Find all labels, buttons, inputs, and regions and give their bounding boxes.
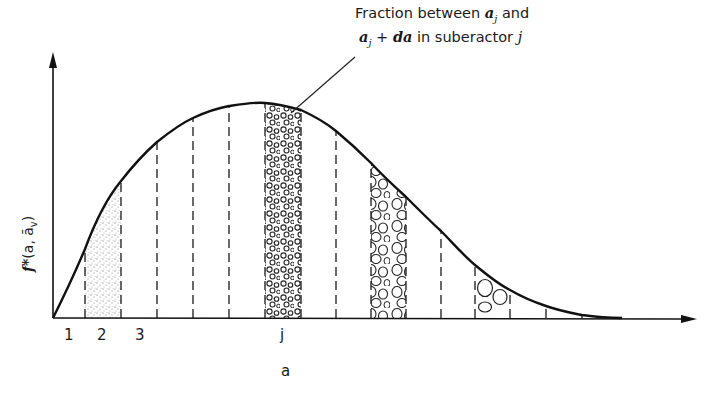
x-axis-label: a <box>281 362 290 380</box>
x-axis <box>53 318 683 319</box>
callout-annotation: Fraction between aj and aj + da in suber… <box>355 4 529 52</box>
distribution-diagram <box>0 0 715 403</box>
callout-line-1: Fraction between aj and <box>355 4 529 28</box>
y-axis-label: f*(a, āv) <box>20 216 39 272</box>
slice-medium-circles <box>371 163 406 318</box>
x-tick-2: 2 <box>97 326 107 344</box>
callout-leader-line <box>291 57 355 113</box>
slice-2-stipple <box>85 181 121 318</box>
distribution-curve <box>53 103 622 318</box>
slice-boundaries <box>85 103 582 318</box>
x-tick-3: 3 <box>135 326 145 344</box>
x-tick-j: j <box>280 326 284 344</box>
callout-line-2: aj + da in suberactor j <box>355 28 529 52</box>
x-tick-1: 1 <box>64 326 74 344</box>
slice-j-small-circles <box>265 103 301 318</box>
y-axis-arrow-icon <box>49 52 57 68</box>
x-axis-arrow-icon <box>681 315 697 323</box>
